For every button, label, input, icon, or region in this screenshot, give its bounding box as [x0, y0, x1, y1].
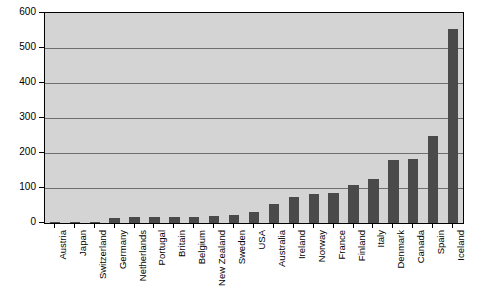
x-axis-tick-label: Belgium	[197, 230, 207, 264]
bar	[368, 179, 378, 223]
bar	[249, 212, 259, 223]
x-axis-tick-mark	[253, 223, 254, 228]
x-axis-tick-label: Australia	[277, 230, 287, 267]
x-axis-tick-mark	[372, 223, 373, 228]
x-axis-tick-mark	[412, 223, 413, 228]
x-axis-tick-label: Netherlands	[138, 230, 148, 281]
x-axis-tick-label: Denmark	[396, 230, 406, 269]
y-axis: 0100200300400500600	[0, 0, 40, 301]
x-axis-tick-label: Japan	[78, 230, 88, 256]
bar	[289, 197, 299, 223]
x-axis-tick-label: France	[337, 230, 347, 260]
bar	[408, 159, 418, 223]
x-axis-tick-mark	[392, 223, 393, 228]
x-axis-tick-label: Canada	[416, 230, 426, 263]
bar	[448, 29, 458, 223]
bar	[229, 215, 239, 223]
x-axis-tick-label: Sweden	[237, 230, 247, 264]
x-axis-tick-label: New Zealand	[217, 230, 227, 286]
bar	[309, 194, 319, 223]
bar	[388, 160, 398, 223]
x-axis-tick-mark	[452, 223, 453, 228]
x-axis-tick-mark	[353, 223, 354, 228]
x-axis-tick-mark	[273, 223, 274, 228]
y-axis-tick-label: 200	[19, 147, 36, 157]
x-axis-tick-label: Switzerland	[98, 230, 108, 279]
x-axis-tick-label: Iceland	[456, 230, 466, 261]
x-axis-tick-mark	[213, 223, 214, 228]
x-axis-tick-label: Britain	[177, 230, 187, 257]
bar	[209, 216, 219, 223]
x-axis-tick-mark	[134, 223, 135, 228]
bar	[348, 185, 358, 223]
x-axis-tick-mark	[233, 223, 234, 228]
x-axis-tick-label: Ireland	[297, 230, 307, 259]
x-axis-tick-mark	[333, 223, 334, 228]
bars-layer	[45, 13, 463, 223]
x-axis-tick-mark	[54, 223, 55, 228]
x-axis-tick-label: Portugal	[157, 230, 167, 265]
x-axis-tick-mark	[114, 223, 115, 228]
x-axis: AustriaJapanSwitzerlandGermanyNetherland…	[44, 223, 464, 301]
x-axis-tick-label: USA	[257, 230, 267, 250]
x-axis-tick-label: Norway	[317, 230, 327, 262]
x-axis-tick-mark	[293, 223, 294, 228]
plot-area	[44, 12, 464, 224]
x-axis-tick-label: Spain	[436, 230, 446, 254]
x-axis-tick-mark	[432, 223, 433, 228]
x-axis-tick-mark	[173, 223, 174, 228]
x-axis-tick-mark	[313, 223, 314, 228]
y-axis-tick-label: 0	[30, 217, 36, 227]
bar	[328, 193, 338, 223]
x-axis-tick-label: Austria	[58, 230, 68, 260]
x-axis-tick-label: Germany	[118, 230, 128, 269]
y-axis-tick-label: 500	[19, 42, 36, 52]
y-axis-tick-label: 300	[19, 112, 36, 122]
x-axis-tick-mark	[193, 223, 194, 228]
x-axis-tick-mark	[153, 223, 154, 228]
x-axis-tick-label: Italy	[376, 230, 386, 247]
y-axis-tick-label: 400	[19, 77, 36, 87]
bar	[428, 136, 438, 224]
bar-chart: 0100200300400500600 AustriaJapanSwitzerl…	[0, 0, 478, 301]
y-axis-tick-label: 100	[19, 182, 36, 192]
y-axis-tick-label: 600	[19, 7, 36, 17]
bar	[269, 204, 279, 223]
x-axis-tick-mark	[74, 223, 75, 228]
x-axis-tick-mark	[94, 223, 95, 228]
x-axis-tick-label: Finland	[357, 230, 367, 261]
